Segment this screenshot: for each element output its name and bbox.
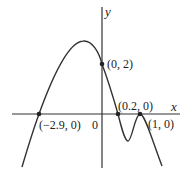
point-0-2 — [100, 62, 105, 67]
label-0-2: (0, 2) — [107, 57, 133, 71]
point-neg2-9-0 — [37, 112, 42, 117]
label-0-2-0: (0.2, 0) — [118, 99, 153, 113]
x-axis-label: x — [170, 99, 177, 114]
function-graph: y x 0 (−2.9, 0) (0, 2) (0.2, 0) (1, 0) — [0, 0, 188, 180]
label-neg2-9-0: (−2.9, 0) — [39, 118, 81, 132]
y-axis-label: y — [103, 4, 111, 19]
label-1-0: (1, 0) — [148, 117, 174, 131]
origin-label: 0 — [92, 118, 98, 132]
